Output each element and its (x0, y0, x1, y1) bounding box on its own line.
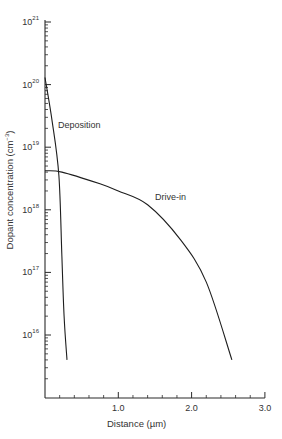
y-tick-label: 1016 (22, 328, 39, 340)
labels: DepositionDrive-in (58, 120, 186, 202)
y-tick-label: 1020 (22, 78, 39, 90)
y-axis-title: Dopant concentration (cm−3) (4, 131, 15, 250)
y-tick-label: 1021 (22, 15, 39, 27)
dopant-profile-chart: 1016101710181019102010211.02.03.0Distanc… (0, 0, 282, 439)
y-tick-label: 1018 (22, 203, 39, 215)
axes: 1016101710181019102010211.02.03.0Distanc… (4, 15, 271, 429)
drive-in-label: Drive-in (155, 192, 186, 202)
x-tick-label: 2.0 (185, 403, 198, 413)
x-tick-label: 1.0 (112, 403, 125, 413)
y-tick-label: 1017 (22, 265, 39, 277)
x-axis-title: Distance (µm) (107, 418, 166, 429)
y-tick-label: 1019 (22, 140, 39, 152)
deposition-label: Deposition (58, 120, 101, 130)
curve-drive-in (45, 171, 232, 360)
x-tick-label: 3.0 (259, 403, 272, 413)
